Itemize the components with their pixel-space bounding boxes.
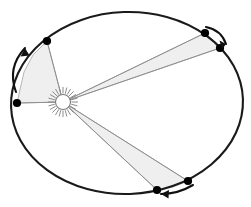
sector-upper-right [63, 33, 220, 102]
radius-to-lower-right-planet-a [63, 102, 157, 190]
sun-ray [59, 110, 61, 116]
kepler-second-law-diagram [0, 0, 251, 207]
sun-ray [50, 106, 56, 109]
sun-icon [48, 87, 78, 117]
radius-to-upper-right-planet-b [63, 48, 220, 102]
sun-ray [71, 104, 77, 106]
sun-ray [65, 88, 67, 94]
planet-dot-left [13, 99, 21, 107]
planet-dot-upper-right-leading [201, 29, 209, 37]
sun-ray [67, 89, 70, 95]
sun-ray [65, 110, 67, 116]
elliptical-orbit [8, 8, 246, 198]
radius-to-upper-right-planet-a [63, 33, 205, 102]
sun-ray [69, 91, 74, 96]
planet-dot-upper-left [43, 37, 51, 45]
planet-dot-lower-right-trailing [153, 186, 161, 194]
sun-core [56, 95, 71, 110]
sun-ray [52, 108, 57, 113]
sector-lower-right [63, 102, 188, 190]
radius-to-lower-right-planet-b [63, 102, 188, 181]
sun-ray [56, 109, 59, 115]
planet-dot-lower-right-leading [184, 177, 192, 185]
sun-ray [67, 109, 70, 115]
sun-ray [49, 104, 55, 106]
orbit-diagram-canvas [0, 0, 251, 207]
